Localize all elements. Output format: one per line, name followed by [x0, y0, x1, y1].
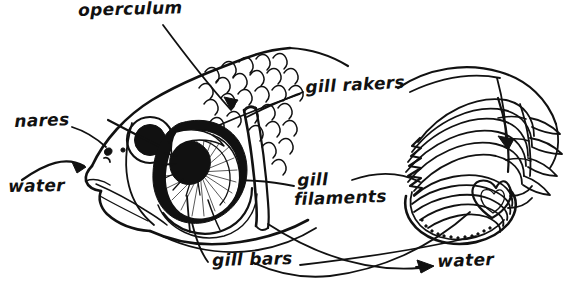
- gill-arch-exposed: [153, 120, 257, 238]
- body-upper-back: [290, 48, 348, 66]
- scale-row-6: [262, 139, 293, 159]
- label-operculum: operculum: [78, 0, 183, 20]
- label-gill-filaments: gillfilaments: [297, 169, 387, 209]
- operculum-bottom-curve: [256, 226, 268, 230]
- label-water-right: water: [437, 251, 494, 271]
- lower-jaw: [100, 191, 150, 231]
- leader-nares: [72, 127, 106, 147]
- nostril-dot: [121, 148, 125, 152]
- label-gill-filaments-line2: filaments: [294, 188, 387, 209]
- scale-row-7: [272, 160, 286, 176]
- fish-gill-diagram: operculum nares water gill rakers gillfi…: [0, 0, 587, 296]
- jaw-inner-line-2: [100, 196, 148, 221]
- scale-row-5: [249, 121, 297, 142]
- label-nares: nares: [14, 111, 70, 131]
- label-gill-bars: gill bars: [212, 250, 293, 270]
- scale-row-2: [199, 69, 298, 100]
- detail-filament-jagged-edge: [408, 138, 422, 195]
- label-water-left: water: [8, 177, 65, 196]
- nostril-mark: [105, 148, 113, 155]
- snout-upper-lip: [86, 166, 101, 191]
- gill-arch-closeup: [398, 67, 562, 244]
- label-gill-filaments-line1: gill: [297, 169, 329, 190]
- nostril-mark-2: [104, 158, 110, 162]
- diagram-artwork: [0, 0, 587, 296]
- leader-gill-rakers-detail: [410, 76, 500, 92]
- leader-water-right-tail: [416, 266, 432, 267]
- detail-filament-arcs: [406, 99, 534, 191]
